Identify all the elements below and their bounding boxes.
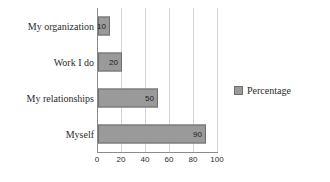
bar-value-work-i-do: 20	[109, 58, 121, 66]
x-axis-tick-labels: 0 20 40 60 80 100	[97, 155, 217, 169]
bar-value-my-relationships: 50	[145, 94, 157, 102]
x-tick-80: 80	[189, 155, 198, 164]
x-tick-60: 60	[165, 155, 174, 164]
bar-value-my-organization: 10	[97, 22, 109, 30]
category-label-my-relationships: My relationships	[27, 93, 95, 104]
bar-my-relationships[interactable]: 50	[98, 89, 158, 108]
bar-row: Myself 90	[97, 116, 217, 152]
bar-row: My organization 10	[97, 8, 217, 44]
category-label-work-i-do: Work I do	[54, 57, 94, 68]
bar-my-organization[interactable]: 10	[98, 17, 110, 36]
bar-row: Work I do 20	[97, 44, 217, 80]
x-axis-line	[97, 152, 218, 153]
legend-label-percentage: Percentage	[247, 85, 291, 96]
bar-value-myself: 90	[193, 130, 205, 138]
bar-row: My relationships 50	[97, 80, 217, 116]
gridline-100	[217, 8, 218, 152]
bar-chart: My organization 10 Work I do 20 My relat…	[0, 0, 330, 182]
x-tick-0: 0	[95, 155, 99, 164]
x-tick-20: 20	[117, 155, 126, 164]
bar-work-i-do[interactable]: 20	[98, 53, 122, 72]
category-label-my-organization: My organization	[28, 21, 94, 32]
legend: Percentage	[234, 85, 291, 96]
x-tick-100: 100	[210, 155, 223, 164]
category-label-myself: Myself	[66, 129, 94, 140]
bar-myself[interactable]: 90	[98, 125, 206, 144]
plot-area: My organization 10 Work I do 20 My relat…	[97, 8, 217, 152]
legend-swatch-percentage	[234, 86, 243, 95]
x-tick-40: 40	[141, 155, 150, 164]
